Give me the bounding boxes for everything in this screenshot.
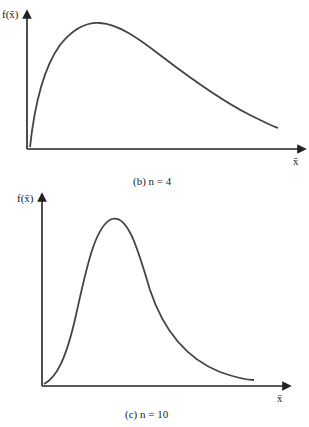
density-curve <box>44 219 254 384</box>
density-curve <box>30 23 278 147</box>
chart-b: f(x̄) x̄ (b) n = 4 <box>2 8 302 188</box>
figure: f(x̄) x̄ (b) n = 4 f(x̄) x̄ (c) n = 10 <box>0 0 309 427</box>
y-axis-label: f(x̄) <box>2 8 19 21</box>
chart-c: f(x̄) x̄ (c) n = 10 <box>17 192 287 421</box>
caption: (b) n = 4 <box>133 175 172 188</box>
y-axis-label: f(x̄) <box>17 192 34 205</box>
x-axis-label: x̄ <box>293 155 299 167</box>
x-axis-label: x̄ <box>277 392 283 404</box>
caption: (c) n = 10 <box>125 408 169 421</box>
